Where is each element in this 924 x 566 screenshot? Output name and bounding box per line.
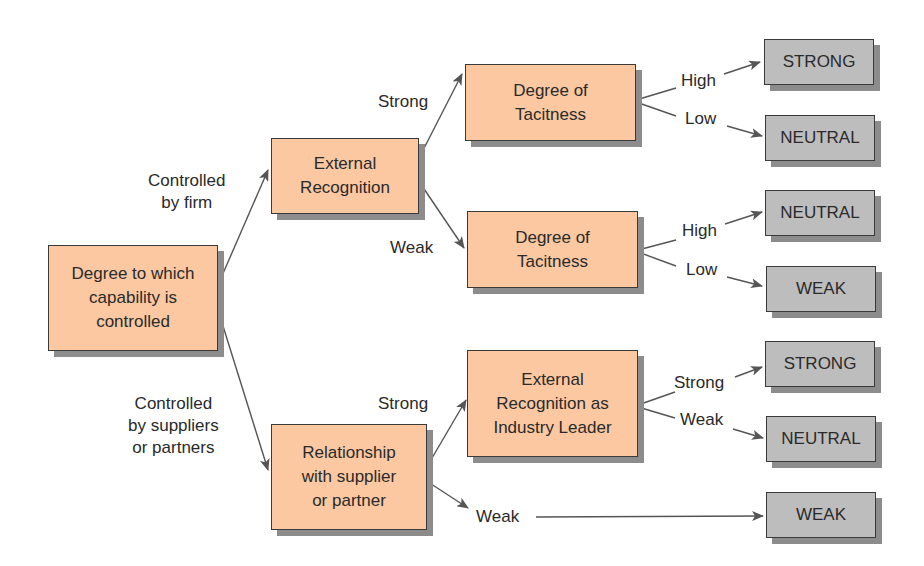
label-controlled-by-suppliers: Controlled by suppliers or partners — [128, 393, 219, 459]
node-relationship: Relationship with supplier or partner — [271, 424, 427, 530]
label-er-strong: Strong — [378, 91, 428, 113]
label-t2-low: Low — [686, 259, 717, 281]
label-lead-weak: Weak — [680, 409, 723, 431]
outcome-neutral-1: NEUTRAL — [765, 115, 875, 161]
label-er-weak: Weak — [390, 237, 433, 259]
outcome-strong-1: STRONG — [764, 39, 874, 85]
node-tacitness-1: Degree of Tacitness — [465, 64, 636, 141]
node-external-recognition: External Recognition — [271, 138, 419, 214]
node-root: Degree to which capability is controlled — [48, 245, 218, 351]
label-controlled-by-firm: Controlled by firm — [148, 170, 226, 214]
outcome-weak-1: WEAK — [766, 266, 876, 312]
label-rel-strong: Strong — [378, 393, 428, 415]
outcome-neutral-3: NEUTRAL — [766, 416, 876, 462]
outcome-weak-2: WEAK — [766, 492, 876, 538]
node-industry-leader: External Recognition as Industry Leader — [467, 350, 638, 457]
label-t1-low: Low — [685, 108, 716, 130]
label-t2-high: High — [682, 220, 717, 242]
outcome-neutral-2: NEUTRAL — [765, 190, 875, 236]
label-lead-strong: Strong — [674, 372, 724, 394]
node-tacitness-2: Degree of Tacitness — [467, 211, 638, 288]
outcome-strong-2: STRONG — [765, 341, 875, 387]
label-rel-weak: Weak — [476, 506, 519, 528]
label-t1-high: High — [681, 70, 716, 92]
